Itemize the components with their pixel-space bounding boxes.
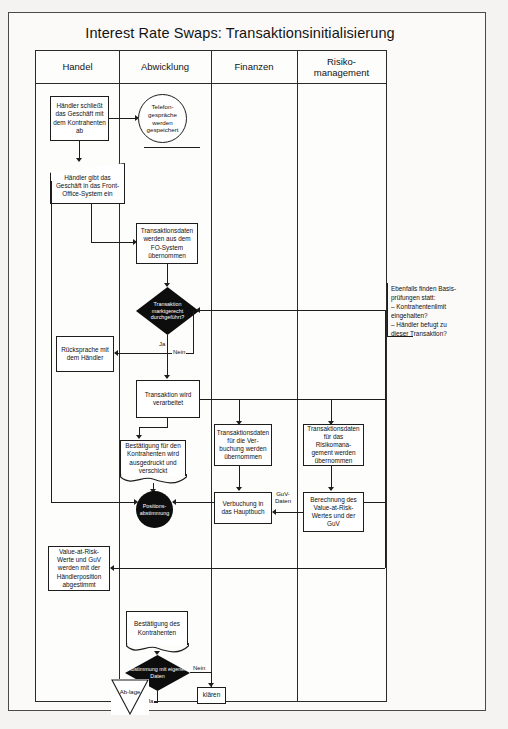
node-haendler-gibt-eingabe: Händler gibt das Geschäft in das Front-O… <box>50 163 125 204</box>
edge-doc2-to-decision-arrow <box>154 651 160 655</box>
node-ruecksprache: Rücksprache mit dem Händler <box>56 336 114 372</box>
node-berechnung-var-label: Berechnung des Value-at-Risk-Wertes und … <box>306 496 361 529</box>
edge-verarbeitet-to-doc-arrow <box>136 435 142 439</box>
lane-header-handel-label: Handel <box>62 61 92 72</box>
edge-gibt-to-fo <box>91 242 133 243</box>
edge-var-feedback <box>111 568 385 569</box>
page-title: Interest Rate Swaps: Transaktionsinitial… <box>30 25 450 41</box>
node-transaktionsdaten-risiko-label: Transaktionsdaten für das Risikomana-gem… <box>306 425 361 466</box>
edge-handel-feedback-vertical <box>51 181 52 503</box>
edge-label-nein-2: Nein <box>192 665 206 671</box>
edge-schliesst-to-gibt-arrow <box>76 158 82 162</box>
edge-risk-to-positionsabstimmung-arrow <box>172 499 176 505</box>
annotation-bottom-tick <box>387 336 413 337</box>
edge-right-rail <box>385 310 386 568</box>
store-underline-telefon <box>144 147 200 148</box>
edge-nein-to-ruecksprache <box>115 353 168 354</box>
lane-divider-3 <box>297 51 298 701</box>
lane-header-finanzen-label: Finanzen <box>234 61 273 72</box>
node-verbuchung-hauptbuch: Verbuchung in das Hauptbuch <box>214 492 272 524</box>
node-decision-marktgerecht-label: Transaktion marktgerecht durchgeführt? <box>138 301 197 321</box>
node-value-at-risk-abgestimmt: Value-at-Risk-Werte und GuV werden mit d… <box>48 546 110 591</box>
node-ruecksprache-label: Rücksprache mit dem Händler <box>59 346 111 362</box>
node-berechnung-var: Berechnung des Value-at-Risk-Wertes und … <box>303 492 364 532</box>
diagram-page: Interest Rate Swaps: Transaktionsinitial… <box>0 0 508 729</box>
node-decision-abstimmung-label: Abstimmung mit eigenen Daten <box>127 666 188 680</box>
ablage-triangle-shape <box>111 679 149 715</box>
node-bestaetigung-des-kontrahenten: Bestätigung des Kontrahenten <box>126 611 188 645</box>
edge-label-ja-1: Ja <box>158 341 166 347</box>
node-verbuchung-hauptbuch-label: Verbuchung in das Hauptbuch <box>217 500 269 516</box>
node-ablage-label: Ab-lage <box>120 689 141 696</box>
lane-header-handel: Handel <box>36 51 119 83</box>
node-telefongespraeche-store-label: Telefon-gespräche werden gespeichert <box>141 103 184 135</box>
edge-label-guv-daten: GuV- Daten <box>274 491 292 505</box>
node-bestaetigung-kontrahenten-doc: Bestätigung für den Kontrahenten wird au… <box>120 440 186 476</box>
lane-header-risikomanagement-label: Risiko- management <box>314 56 369 78</box>
lane-header-abwicklung: Abwicklung <box>119 51 211 83</box>
lane-header-abwicklung-label: Abwicklung <box>141 61 189 72</box>
lane-divider-2 <box>211 51 212 701</box>
node-transaktionsdaten-risiko: Transaktionsdaten für das Risikomana-gem… <box>303 424 364 466</box>
edge-decision-to-annotation-arrow <box>196 307 200 313</box>
edge-ja-down-arrow <box>164 375 170 379</box>
node-transaktionsdaten-verbuchung: Transaktionsdaten für die Ver-buchung we… <box>214 424 272 466</box>
edge-decision-nein-vertical <box>193 310 194 353</box>
node-klaeren: klären <box>197 687 226 704</box>
node-ablage: Ab-lage <box>111 679 149 715</box>
node-bestaetigung-kontrahenten-doc-label: Bestätigung für den Kontrahenten wird au… <box>123 442 183 475</box>
lane-divider-1 <box>119 51 120 701</box>
node-positionsabstimmung: Positions-abstimmung <box>136 491 173 528</box>
annotation-left-bar <box>387 283 388 336</box>
annotation-basispruefungen: Ebenfalls finden Basis- prüfungen statt:… <box>391 284 503 339</box>
edge-berechnung-rail <box>364 502 386 503</box>
node-haendler-schliesst: Händler schließt das Geschäft mit dem Ko… <box>50 96 109 141</box>
edge-verbuchung-down-arrow <box>236 487 242 491</box>
edge-var-feedback-arrow <box>110 565 114 571</box>
node-transaktion-verarbeitet-label: Transaktion wird verarbeitet <box>139 391 197 407</box>
lane-header-rule <box>36 83 386 84</box>
edge-verarbeitet-to-doc-h <box>139 427 168 428</box>
edge-guv-daten-arrow <box>272 509 276 515</box>
lane-header-finanzen: Finanzen <box>211 51 297 83</box>
edge-fo-to-decision-arrow <box>164 283 170 287</box>
edge-label-nein-1: Nein <box>172 349 186 355</box>
edge-decision2-nein-h <box>190 672 212 673</box>
node-transaktionsdaten-fo: Transaktionsdaten werden aus dem FO-Syst… <box>136 223 198 264</box>
swimlane-table: Handel Abwicklung Finanzen Risiko- manag… <box>35 50 387 702</box>
node-value-at-risk-abgestimmt-label: Value-at-Risk-Werte und GuV werden mit d… <box>51 548 107 589</box>
lane-header-risikomanagement: Risiko- management <box>297 51 386 83</box>
edge-nein-to-ruecksprache-arrow <box>114 350 118 356</box>
edge-guv-daten <box>273 512 304 513</box>
edge-decision-ja <box>167 335 168 353</box>
node-haendler-gibt-eingabe-label: Händler gibt das Geschäft in das Front-O… <box>53 174 122 199</box>
edge-schliesst-to-telefon <box>109 118 135 119</box>
node-haendler-schliesst-label: Händler schließt das Geschäft mit dem Ko… <box>53 102 106 135</box>
edge-risiko-down-arrow <box>328 487 334 491</box>
edge-handel-feedback-horizontal <box>51 502 134 503</box>
edge-decision-to-annotation <box>199 310 386 311</box>
node-transaktionsdaten-verbuchung-label: Transaktionsdaten für die Ver-buchung we… <box>217 429 269 462</box>
node-telefongespraeche-store: Telefon-gespräche werden gespeichert <box>138 94 187 143</box>
edge-verarbeitet-right <box>200 399 386 400</box>
node-transaktionsdaten-fo-label: Transaktionsdaten werden aus dem FO-Syst… <box>139 227 195 260</box>
node-positionsabstimmung-label: Positions-abstimmung <box>138 503 171 517</box>
node-transaktion-verarbeitet: Transaktion wird verarbeitet <box>136 380 200 418</box>
node-decision-marktgerecht: Transaktion marktgerecht durchgeführt? <box>136 287 199 335</box>
node-bestaetigung-des-kontrahenten-label: Bestätigung des Kontrahenten <box>129 620 185 636</box>
edge-gibt-down <box>91 204 92 243</box>
node-klaeren-label: klären <box>203 691 220 699</box>
